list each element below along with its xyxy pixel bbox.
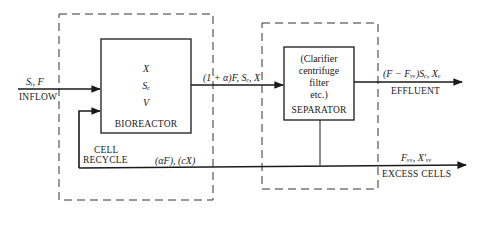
reactor-var-substrate: Sₑ — [136, 80, 156, 91]
inflow-label: INFLOW — [19, 92, 57, 103]
effluent-label: EFFLUENT — [391, 86, 440, 97]
separator-label: SEPARATOR — [286, 105, 352, 116]
reactor-var-biomass: X — [136, 63, 156, 74]
reactor-outflow-vars: (1 + α)F, Sₑ, X — [203, 72, 260, 83]
separator-desc-2: centrifuge — [286, 65, 352, 76]
excess-cells-label: EXCESS CELLS — [382, 169, 451, 180]
recycle-label-line2: RECYCLE — [83, 155, 128, 166]
excess-cells-vars: Fᵥᵥ, X′ᵥᵥ — [401, 152, 432, 163]
excess-cells-arrow — [79, 165, 466, 168]
reactor-var-volume: V — [136, 97, 156, 108]
bioreactor-label: BIOREACTOR — [103, 119, 189, 130]
effluent-vars: (F − Fᵥᵥ)Sₑ, Xₑ — [383, 68, 441, 79]
separator-desc-3: filter — [286, 77, 352, 88]
separator-desc-4: etc.) — [286, 89, 352, 100]
recycle-vars: (αF), (cX) — [155, 155, 195, 166]
separator-desc-1: (Clarifier — [286, 53, 352, 64]
inflow-vars: Sᵢ, F — [26, 76, 44, 87]
